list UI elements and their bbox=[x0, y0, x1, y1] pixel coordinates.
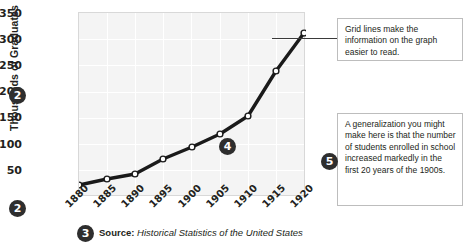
y-tick-label: 250 bbox=[0, 59, 22, 72]
graduates-line-chart: Thousands of Graduates 350 300 250 200 1… bbox=[0, 0, 330, 245]
marker-2-y-axis: 2 bbox=[9, 87, 26, 104]
marker-4-plot: 4 bbox=[219, 138, 236, 155]
data-point-1900 bbox=[189, 144, 195, 150]
y-tick-label: 350 bbox=[0, 7, 22, 20]
plot-area bbox=[78, 12, 305, 196]
y-tick-label: 100 bbox=[0, 138, 22, 151]
marker-3-source: 3 bbox=[77, 225, 94, 242]
series-markers bbox=[79, 30, 306, 188]
data-series-line bbox=[79, 13, 306, 197]
callout-leader-line bbox=[272, 38, 337, 39]
data-point-1920 bbox=[301, 30, 306, 36]
y-tick-label: 300 bbox=[0, 33, 22, 46]
data-point-1890 bbox=[132, 171, 138, 177]
data-point-1895 bbox=[160, 156, 166, 162]
data-point-1910 bbox=[245, 113, 251, 119]
callout-generalization: A generalization you might make here is … bbox=[337, 113, 463, 206]
marker-5-callout: 5 bbox=[321, 153, 338, 170]
source-label: Source: bbox=[99, 227, 134, 238]
data-point-1915 bbox=[273, 68, 279, 74]
data-point-1885 bbox=[104, 176, 110, 182]
data-point-1905 bbox=[217, 131, 223, 137]
source-caption: Source: Historical Statistics of the Uni… bbox=[99, 227, 303, 238]
source-text: Historical Statistics of the United Stat… bbox=[137, 227, 303, 238]
callout-gridlines: Grid lines make the information on the g… bbox=[337, 18, 463, 61]
marker-2-x-axis: 2 bbox=[9, 200, 26, 217]
y-tick-label: 150 bbox=[0, 111, 22, 124]
y-axis-title: Thousands of Graduates bbox=[8, 0, 20, 148]
series-polyline bbox=[79, 33, 304, 185]
y-tick-label: 50 bbox=[0, 164, 22, 177]
